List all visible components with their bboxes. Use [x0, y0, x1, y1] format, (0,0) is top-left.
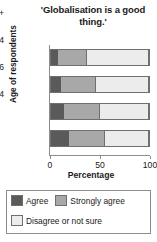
- bar-segment-disagree-or-not-sure: [105, 131, 149, 146]
- table-row: [50, 130, 150, 147]
- x-tick-label-0: 0: [35, 160, 65, 170]
- legend-label-agree: Agree: [26, 196, 48, 206]
- legend-row-2: Disagree or not sure: [11, 215, 109, 226]
- plot-area: 050100: [50, 45, 150, 155]
- bar-segment-agree: [51, 104, 64, 119]
- x-tick-mark-100: [150, 156, 151, 159]
- legend-swatch-disagree-or-not-sure: [11, 215, 23, 226]
- table-row: [50, 76, 150, 93]
- bar-segment-agree: [51, 131, 69, 146]
- x-tick-label-50: 50: [85, 160, 115, 170]
- table-row: [50, 49, 150, 66]
- x-tick-label-100: 100: [135, 160, 157, 170]
- y-tick-label-15-24: 15–24: [0, 89, 4, 99]
- bar-segment-strongly-agree: [61, 77, 96, 92]
- legend: Agree Strongly agree Disagree or not sur…: [6, 190, 151, 234]
- legend-row-1: Agree Strongly agree: [11, 195, 132, 206]
- y-tick-label-25-36: 25–36: [0, 62, 4, 72]
- y-axis-title: Age of respondents: [8, 10, 18, 118]
- x-axis-title: Percentage: [30, 170, 152, 180]
- bar-segment-disagree-or-not-sure: [100, 104, 149, 119]
- stacked-bar-chart-figure: 'Globalisation is a good thing.' Age of …: [0, 0, 157, 242]
- legend-label-disagree-or-not-sure: Disagree or not sure: [26, 216, 102, 226]
- bar-segment-strongly-agree: [69, 131, 105, 146]
- bar-segment-strongly-agree: [64, 104, 100, 119]
- chart-title: 'Globalisation is a good thing.': [34, 4, 152, 27]
- bar-segment-strongly-agree: [58, 50, 87, 65]
- bar-segment-agree: [51, 50, 58, 65]
- bar-segment-disagree-or-not-sure: [87, 50, 149, 65]
- x-tick-mark-50: [100, 156, 101, 159]
- bar-segment-disagree-or-not-sure: [96, 77, 149, 92]
- legend-item-strongly-agree: Strongly agree: [55, 195, 124, 206]
- bar-segment-agree: [51, 77, 61, 92]
- table-row: [50, 103, 150, 120]
- legend-label-strongly-agree: Strongly agree: [70, 196, 124, 206]
- legend-swatch-agree: [11, 195, 23, 206]
- legend-item-disagree-or-not-sure: Disagree or not sure: [11, 215, 102, 226]
- legend-swatch-strongly-agree: [55, 195, 67, 206]
- x-tick-mark-0: [50, 156, 51, 159]
- y-tick-label-55-plus: 55+: [0, 8, 4, 18]
- y-tick-label-40-54: 40–54: [0, 35, 4, 45]
- legend-item-agree: Agree: [11, 195, 48, 206]
